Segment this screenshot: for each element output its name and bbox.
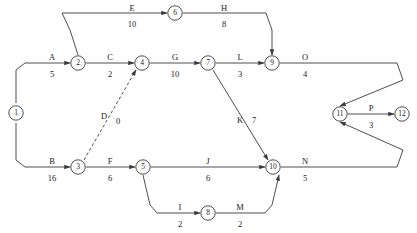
edge-duration-o: 4	[303, 69, 308, 79]
node-label-12: 12	[398, 109, 406, 118]
edge-label-j: J	[206, 156, 210, 166]
edge-h	[183, 13, 272, 55]
edge-label-i: I	[179, 202, 182, 212]
node-label-3: 3	[76, 162, 80, 171]
edge-m	[216, 175, 279, 213]
edge-duration-c: 2	[108, 69, 112, 79]
edge-duration-h: 8	[222, 19, 226, 29]
edge-duration-d: 0	[116, 116, 120, 126]
node-12: 12	[395, 107, 409, 121]
node-11: 11	[333, 107, 347, 121]
edge-label-b: B	[49, 156, 55, 166]
edge-duration-l: 3	[238, 69, 242, 79]
node-5: 5	[136, 160, 150, 174]
edge-label-a: A	[49, 52, 56, 62]
node-label-9: 9	[270, 58, 274, 67]
edge-o	[280, 63, 403, 106]
edge-duration-f: 6	[108, 173, 112, 183]
node-7: 7	[201, 56, 215, 70]
edge-i	[143, 175, 200, 213]
edge-duration-p: 3	[369, 120, 373, 130]
node-6: 6	[168, 6, 182, 20]
edge-duration-k: 7	[252, 115, 256, 125]
edge-a	[16, 63, 70, 103]
edge-label-m: M	[236, 202, 244, 212]
node-label-4: 4	[140, 58, 144, 67]
edge-duration-e: 10	[128, 19, 137, 29]
node-1: 1	[9, 106, 23, 120]
node-10: 10	[266, 160, 280, 174]
node-label-8: 8	[206, 208, 210, 217]
edge-label-c: C	[107, 52, 113, 62]
node-label-2: 2	[76, 58, 80, 67]
edge-label-e: E	[129, 3, 134, 13]
edge-label-d: D	[101, 111, 107, 121]
edge-label-f: F	[108, 156, 113, 166]
edge-label-o: O	[302, 52, 308, 62]
edge-duration-n: 5	[303, 173, 307, 183]
edge-n	[281, 122, 403, 167]
edge-duration-i: 2	[178, 219, 182, 229]
edge-e	[62, 13, 167, 55]
edge-duration-b: 16	[48, 173, 57, 183]
node-8: 8	[201, 206, 215, 220]
edge-b	[16, 123, 70, 167]
edge-label-h: H	[221, 3, 227, 13]
edge-duration-j: 6	[206, 173, 210, 183]
edge-label-k: K	[237, 115, 244, 125]
edge-duration-m: 2	[238, 219, 242, 229]
edge-label-p: P	[369, 103, 374, 113]
node-4: 4	[135, 56, 149, 70]
edge-d	[84, 70, 136, 160]
node-2: 2	[71, 56, 85, 70]
node-label-10: 10	[269, 162, 277, 171]
edge-labels-layer: A5B16C2D0E10F6G10H8I2J6K7L3M2N5O4P3	[48, 3, 374, 229]
node-label-6: 6	[173, 8, 177, 17]
node-label-7: 7	[206, 58, 210, 67]
edge-label-g: G	[172, 52, 178, 62]
nodes-layer: 123456789101112	[9, 6, 409, 220]
edge-label-n: N	[302, 156, 308, 166]
edge-duration-a: 5	[50, 69, 54, 79]
network-diagram-canvas: 123456789101112 A5B16C2D0E10F6G10H8I2J6K…	[0, 0, 417, 233]
edge-duration-g: 10	[171, 69, 180, 79]
edge-label-l: L	[237, 52, 242, 62]
node-label-1: 1	[14, 108, 18, 117]
node-9: 9	[265, 56, 279, 70]
node-3: 3	[71, 160, 85, 174]
node-label-5: 5	[141, 162, 145, 171]
network-diagram: 123456789101112 A5B16C2D0E10F6G10H8I2J6K…	[0, 0, 417, 233]
node-label-11: 11	[336, 109, 343, 118]
